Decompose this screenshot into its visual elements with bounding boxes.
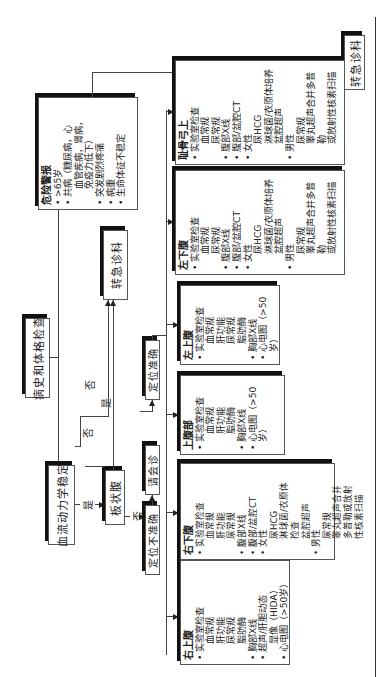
region-right-lower-box: 右下腹 实验室检查 血常规 肝功能 尿常规 腹部X线 腹部/盆腔CT 女性 尿H… (180, 463, 335, 560)
region-item: 脂肪酶 (237, 290, 248, 360)
region-item: 男性 (285, 175, 296, 270)
arrow-icon (105, 300, 111, 306)
region-item: 肝功能 (216, 468, 227, 555)
danger-title: 危险警报 (42, 102, 53, 205)
localization-inaccurate-label: 定位不准确 (145, 513, 160, 568)
region-item: 盆腔超声 (301, 468, 312, 555)
yes-label: 是 (98, 397, 113, 409)
region-item: 心电图（>50岁） (258, 290, 279, 360)
region-item: 女性 (258, 468, 269, 555)
region-item: 女性 (243, 175, 254, 270)
history-exam-box: 病史和体格检查 (25, 318, 50, 398)
connector (113, 300, 114, 470)
region-item: 心电图（>50岁） (248, 380, 269, 450)
region-title: 右上腹 (184, 565, 195, 660)
region-item: 实验室检查 (190, 65, 201, 160)
connector (80, 416, 108, 417)
region-item: 睾丸超声合并多普勒 (306, 175, 327, 270)
history-exam-label: 病史和体格检查 (30, 316, 46, 400)
region-item: 实验室检查 (195, 468, 206, 555)
arrow-icon (173, 614, 179, 620)
region-item: 胸部X线 (237, 380, 248, 450)
abdominal-rigidity-box: 板状腹 (105, 470, 125, 525)
region-item: 睾丸超声合并多普勒 (306, 65, 327, 160)
region-item: 腹部/盆腔CT (232, 65, 243, 160)
arrow-icon (168, 219, 174, 225)
region-item: 尿常规 (226, 468, 237, 555)
connector (152, 335, 166, 336)
localization-accurate-label: 定位准确 (145, 348, 160, 392)
region-title: 上腹部 (184, 380, 195, 450)
region-item: 尿常规 (322, 468, 333, 555)
region-left-lower-box: 左下腹 实验室检查 血常规 尿常规 腹部X线 腹部/盆腔CT 女性 尿HCG 淋… (175, 170, 345, 275)
region-item: 或放射性核素扫描 (327, 175, 338, 270)
danger-box: 危险警报 >65岁 共病（糖尿病，心 血管疾病，肾病， 免疫力低下） 突发剧烈疼… (38, 97, 138, 210)
region-item: 血常规 (205, 468, 216, 555)
hemodynamic-box: 血流动力学稳定 (48, 465, 75, 545)
region-right-upper-box: 右上腹 实验室检查 血常规 肝功能 尿常规 脂肪酶 胸部X线 超声/肝胆动态 显… (180, 560, 290, 665)
region-title: 左上腹 (184, 290, 195, 360)
region-item: 腹部X线 (237, 468, 248, 555)
refer-emergency-label: 转急诊科 (108, 241, 124, 289)
no-label: 否 (82, 379, 97, 391)
region-item: 心电图（>50岁） (279, 565, 290, 660)
localization-accurate-box: 定位准确 (145, 340, 160, 400)
region-item: 血常规 (200, 175, 211, 270)
region-item: 腹部/盆腔CT (232, 175, 243, 270)
region-item: 或放射性核素扫描 (327, 65, 338, 160)
region-item: 检查 (290, 468, 301, 555)
region-item: 男性 (285, 65, 296, 160)
no-label: 否 (80, 427, 95, 439)
region-item: 尿常规 (226, 565, 237, 660)
page-rule (375, 17, 376, 677)
region-item: 性核素扫描 (354, 468, 365, 555)
abdominal-rigidity-label: 板状腹 (107, 480, 123, 516)
consult-box: 请会诊 (145, 445, 160, 495)
connector (108, 300, 109, 417)
region-item: 血常规 (205, 565, 216, 660)
arrow-icon (173, 322, 179, 328)
region-item: 肝功能 (216, 565, 227, 660)
connector (140, 411, 152, 412)
refer-emergency-box-right: 转急诊科 (344, 35, 365, 90)
region-epigastric-box: 上腹部 实验室检查 血常规 肝功能 脂肪酶 胸部X线 心电图（>50岁） (180, 375, 285, 455)
refer-emergency-label: 转急诊科 (347, 39, 363, 87)
region-left-upper-box: 左上腹 实验室检查 血常规 肝功能 尿常规 脂肪酶 胸部X线 心电图（>50岁） (180, 285, 280, 365)
connector (92, 73, 93, 97)
region-item: 女性 (243, 65, 254, 160)
region-suprapubic-box: 耻骨弓上 实验室检查 血常规 尿常规 腹部X线 腹部/盆腔CT 女性 尿HCG … (175, 60, 345, 165)
region-item: 男性 (311, 468, 322, 555)
connector (58, 197, 59, 505)
arrow-icon (173, 510, 179, 516)
region-item: 淋球菌/衣原体 (279, 468, 290, 555)
region-title: 耻骨弓上 (179, 65, 190, 160)
connector (152, 336, 153, 340)
refer-emergency-box-mid: 转急诊科 (103, 230, 128, 300)
danger-item: 生命体征不稳定 (116, 102, 127, 205)
arrow-icon (173, 412, 179, 418)
yes-label: 是 (80, 499, 95, 511)
region-item: 睾丸超声合并 (332, 468, 343, 555)
region-item: 实验室检查 (195, 565, 206, 660)
region-item: 脂肪酶 (237, 565, 248, 660)
arrow-icon (149, 495, 155, 501)
hemodynamic-label: 血流动力学稳定 (54, 463, 70, 547)
consult-label: 请会诊 (145, 454, 160, 487)
region-item: 多普勒或放射 (343, 468, 354, 555)
flowchart-rotated: 病史和体格检查 血流动力学稳定 危险警报 >65岁 共病（糖尿病，心 血管疾病，… (0, 0, 379, 677)
danger-item: 突发剧烈疼痛 (95, 102, 106, 205)
region-title: 右下腹 (184, 468, 195, 555)
region-title: 左下腹 (179, 175, 190, 270)
connector (166, 110, 167, 655)
connector (80, 417, 81, 447)
region-item: 实验室检查 (190, 175, 201, 270)
connector (85, 466, 105, 467)
region-item: 腹部/盆腔CT (248, 468, 259, 555)
region-item: 血常规 (200, 65, 211, 160)
connector (50, 357, 58, 358)
localization-inaccurate-box: 定位不准确 (145, 505, 160, 575)
arrow-icon (149, 400, 155, 406)
arrow-icon (168, 109, 174, 115)
region-item: 尿HCG (269, 468, 280, 555)
